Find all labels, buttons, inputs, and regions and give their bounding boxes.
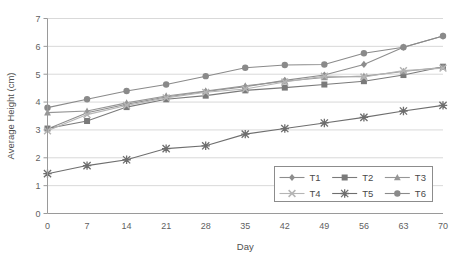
series-group xyxy=(43,32,447,177)
x-tick-label-56: 56 xyxy=(359,221,369,231)
series-line-T4 xyxy=(48,68,444,131)
x-tick-label-49: 49 xyxy=(319,221,329,231)
x-tick-label-14: 14 xyxy=(122,221,132,231)
x-tick-label-70: 70 xyxy=(438,221,448,231)
y-tick-label-0: 0 xyxy=(35,209,40,219)
marker-square xyxy=(342,175,348,181)
y-axis-title: Average Height (cm) xyxy=(5,73,16,160)
marker-asterisk xyxy=(439,101,447,109)
y-tick-label-1: 1 xyxy=(35,181,40,191)
y-tick-label-3: 3 xyxy=(35,125,40,135)
legend-marker-T2 xyxy=(342,175,348,181)
data-point-T1-56 xyxy=(361,61,367,68)
x-tick-label-21: 21 xyxy=(161,221,171,231)
data-point-T6-63 xyxy=(400,44,406,50)
data-point-T6-35 xyxy=(242,65,248,71)
y-tick-label-2: 2 xyxy=(35,153,40,163)
data-point-T5-21 xyxy=(162,144,170,152)
data-point-T2-7 xyxy=(84,118,90,124)
x-tick-label-28: 28 xyxy=(201,221,211,231)
marker-asterisk xyxy=(202,142,210,150)
marker-asterisk xyxy=(281,124,289,132)
data-point-T6-70 xyxy=(440,33,446,39)
marker-asterisk xyxy=(360,113,368,121)
marker-circle xyxy=(361,50,367,56)
legend-label-T1: T1 xyxy=(310,172,321,183)
marker-circle xyxy=(282,62,288,68)
y-tick-label-6: 6 xyxy=(35,42,40,52)
data-point-T6-28 xyxy=(203,73,209,79)
legend-box xyxy=(275,167,433,202)
legend-marker-T5 xyxy=(340,189,348,197)
data-point-T5-14 xyxy=(122,156,130,164)
x-tick-label-0: 0 xyxy=(45,221,50,231)
marker-circle xyxy=(394,190,400,196)
data-point-T5-49 xyxy=(320,119,328,127)
marker-diamond xyxy=(361,61,367,68)
marker-circle xyxy=(123,88,129,94)
marker-square xyxy=(282,85,288,91)
marker-circle xyxy=(203,73,209,79)
legend-label-T5: T5 xyxy=(362,188,373,199)
series-line-T2 xyxy=(48,67,444,129)
tick-labels: 0123456707142128354249566370DayAverage H… xyxy=(5,14,448,252)
series-line-T5 xyxy=(48,105,444,173)
legend-label-T3: T3 xyxy=(415,172,426,183)
x-tick-label-42: 42 xyxy=(280,221,290,231)
marker-square xyxy=(84,118,90,124)
marker-asterisk xyxy=(320,119,328,127)
marker-asterisk xyxy=(340,189,348,197)
legend-label-T2: T2 xyxy=(362,172,373,183)
data-point-T5-28 xyxy=(202,142,210,150)
legend-marker-T6 xyxy=(394,190,400,196)
marker-circle xyxy=(321,61,327,67)
marker-circle xyxy=(400,44,406,50)
marker-asterisk xyxy=(399,107,407,115)
marker-circle xyxy=(440,33,446,39)
data-point-T2-49 xyxy=(321,82,327,88)
y-tick-label-4: 4 xyxy=(35,97,40,107)
marker-asterisk xyxy=(122,156,130,164)
data-point-T5-63 xyxy=(399,107,407,115)
marker-asterisk xyxy=(83,161,91,169)
data-point-T2-42 xyxy=(282,85,288,91)
marker-circle xyxy=(163,81,169,87)
data-point-T5-42 xyxy=(281,124,289,132)
data-point-T5-56 xyxy=(360,113,368,121)
marker-asterisk xyxy=(162,144,170,152)
data-point-T5-35 xyxy=(241,130,249,138)
marker-circle xyxy=(84,96,90,102)
data-point-T5-70 xyxy=(439,101,447,109)
data-point-T6-21 xyxy=(163,81,169,87)
marker-circle xyxy=(242,65,248,71)
data-point-T5-7 xyxy=(83,161,91,169)
series-T4 xyxy=(44,65,446,134)
y-tick-label-5: 5 xyxy=(35,70,40,80)
x-tick-label-7: 7 xyxy=(85,221,90,231)
data-point-T6-49 xyxy=(321,61,327,67)
data-point-T6-56 xyxy=(361,50,367,56)
x-tick-label-35: 35 xyxy=(240,221,250,231)
x-tick-label-63: 63 xyxy=(398,221,408,231)
legend: T1T2T3T4T5T6 xyxy=(275,167,433,202)
chart-canvas: 0123456707142128354249566370DayAverage H… xyxy=(0,0,455,259)
data-point-T6-14 xyxy=(123,88,129,94)
marker-asterisk xyxy=(241,130,249,138)
series-T6 xyxy=(44,33,446,111)
x-axis-title: Day xyxy=(237,241,254,252)
legend-label-T4: T4 xyxy=(310,188,321,199)
legend-label-T6: T6 xyxy=(415,188,426,199)
data-point-T6-7 xyxy=(84,96,90,102)
data-point-T6-42 xyxy=(282,62,288,68)
marker-square xyxy=(321,82,327,88)
line-chart: 0123456707142128354249566370DayAverage H… xyxy=(0,0,455,259)
gridlines xyxy=(48,19,444,186)
y-tick-label-7: 7 xyxy=(35,14,40,24)
